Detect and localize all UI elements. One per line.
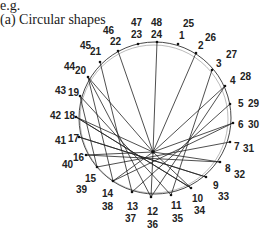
point-label: 14 [102, 188, 114, 199]
point-label: 7 [234, 141, 240, 152]
chord-line [88, 77, 151, 197]
point-label: 35 [172, 213, 184, 224]
point-label: 21 [90, 46, 102, 57]
point-label: 31 [243, 143, 255, 154]
point-label: 26 [205, 32, 217, 43]
point-marker [177, 43, 180, 46]
point-label: 24 [151, 29, 163, 40]
point-marker [190, 187, 193, 190]
chord-line [153, 152, 191, 188]
point-label: 4 [230, 75, 236, 86]
point-label: 47 [131, 17, 143, 28]
point-marker [195, 52, 198, 55]
point-label: 44 [64, 61, 76, 72]
point-marker [112, 180, 115, 183]
apex-point [151, 150, 155, 154]
point-marker [232, 122, 235, 125]
point-label: 17 [68, 133, 80, 144]
chord-line [153, 86, 225, 152]
chord-line [153, 42, 157, 152]
point-marker [211, 69, 214, 72]
point-label: 46 [103, 25, 115, 36]
chord-line [118, 51, 153, 152]
point-label: 27 [226, 49, 238, 60]
point-label: 23 [131, 29, 143, 40]
point-marker [156, 41, 159, 44]
point-marker [170, 194, 173, 197]
point-label: 29 [248, 98, 260, 109]
point-label: 3 [216, 58, 222, 69]
point-label: 19 [68, 87, 80, 98]
point-label: 36 [147, 219, 159, 230]
point-label: 9 [213, 180, 219, 191]
point-marker [87, 76, 90, 79]
point-label: 34 [194, 205, 206, 216]
circular-shape-diagram: 4824472346224521442043194218411740161539… [0, 0, 269, 234]
point-label: 37 [125, 213, 137, 224]
point-label: 40 [62, 159, 74, 170]
point-label: 39 [76, 184, 88, 195]
point-label: 13 [127, 201, 139, 212]
point-marker [99, 61, 102, 64]
point-label: 8 [225, 163, 231, 174]
point-label: 2 [198, 40, 204, 51]
point-marker [85, 154, 88, 157]
point-marker [224, 85, 227, 88]
chord-line [86, 152, 153, 155]
point-marker [96, 166, 99, 169]
point-label: 42 [50, 110, 62, 121]
point-label: 41 [55, 135, 67, 146]
point-label: 38 [102, 201, 114, 212]
point-label: 15 [85, 173, 97, 184]
point-marker [219, 161, 222, 164]
point-label: 16 [73, 152, 85, 163]
point-label: 22 [110, 36, 122, 47]
point-marker [229, 141, 232, 144]
point-label: 18 [64, 110, 76, 121]
chord-line [88, 77, 113, 181]
point-label: 1 [179, 30, 185, 41]
point-marker [229, 103, 232, 106]
point-marker [205, 176, 208, 179]
point-marker [150, 196, 153, 199]
point-label: 10 [192, 193, 204, 204]
point-label: 33 [218, 191, 230, 202]
chord-line [88, 77, 153, 152]
point-label: 5 [238, 98, 244, 109]
point-label: 12 [147, 206, 159, 217]
point-label: 30 [248, 119, 260, 130]
point-marker [131, 191, 134, 194]
point-label: 6 [238, 119, 244, 130]
point-label: 20 [75, 65, 87, 76]
point-label: 25 [183, 18, 195, 29]
point-label: 43 [55, 85, 67, 96]
point-label: 28 [240, 71, 252, 82]
chord-line [100, 62, 132, 192]
point-label: 32 [234, 169, 246, 180]
point-marker [117, 50, 120, 53]
point-marker [137, 43, 140, 46]
point-label: 48 [151, 17, 163, 28]
point-label: 11 [171, 200, 182, 211]
chord-line [153, 53, 196, 152]
